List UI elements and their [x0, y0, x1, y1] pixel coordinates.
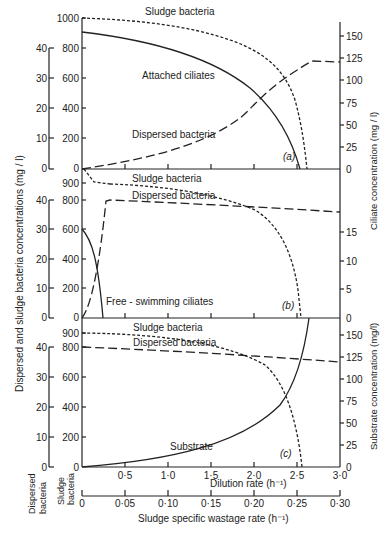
tick-label: 0·5	[118, 470, 133, 481]
b-free-swimming-ciliates-curve	[82, 229, 103, 318]
tick-label: 0·15	[201, 498, 221, 509]
tick-label: 2·5	[290, 470, 305, 481]
a-sludge-curve	[82, 18, 307, 169]
tick-label: 15	[346, 227, 358, 238]
tick-label: 20	[36, 254, 48, 265]
c-dispersed-bacteria-label: Dispersed bacteria	[133, 337, 217, 348]
c-sludge-label: Sludge bacteria	[133, 322, 203, 333]
b-panel-label: (b)	[282, 300, 294, 311]
tick-label: 0	[346, 164, 352, 175]
tick-label: 40	[36, 43, 48, 54]
a-panel-label: (a)	[283, 151, 295, 162]
tick-label: 75	[346, 98, 358, 109]
tick-label: 0	[73, 312, 79, 323]
tick-label: 3·0	[333, 470, 348, 481]
tick-label: 75	[346, 396, 358, 407]
b-free-swimming-ciliates-label: Free - swimming ciliates	[106, 296, 213, 307]
dispersed-axis-name-2: bacteria	[38, 482, 48, 514]
c-panel-label: (c)	[280, 448, 292, 459]
tick-label: 150	[346, 330, 363, 341]
tick-label: 400	[62, 103, 79, 114]
sludge-axis-name-1: Sludge	[56, 477, 66, 505]
tick-label: 0	[41, 462, 47, 473]
tick-label: 0	[41, 163, 47, 174]
tick-label: 200	[62, 133, 79, 144]
tick-label: 800	[62, 43, 79, 54]
tick-label: 200	[62, 432, 79, 443]
left-axis-title: Dispersed and sludge bacteria concentrat…	[14, 155, 25, 392]
tick-label: 100	[346, 75, 363, 86]
tick-label: 30	[36, 372, 48, 383]
tick-label: 0	[41, 312, 47, 323]
tick-label: 0·05	[115, 498, 135, 509]
tick-label: 400	[62, 402, 79, 413]
right-axis-title-substrate: Substrate concentration (mg/l)	[368, 323, 379, 450]
tick-label: 125	[346, 352, 363, 363]
tick-label: 600	[62, 224, 79, 235]
c-substrate-label: Substrate	[170, 441, 213, 452]
tick-label: 5	[346, 284, 352, 295]
tick-label: 2·0	[247, 470, 262, 481]
tick-label: 900	[62, 328, 79, 339]
x2-axis-title: Sludge specific wastage rate (h⁻¹)	[138, 513, 289, 524]
a-sludge-label: Sludge bacteria	[145, 6, 215, 17]
sludge-axis-name-2: bacteria	[66, 473, 76, 505]
tick-label: 30	[36, 224, 48, 235]
tick-label: 10	[36, 283, 48, 294]
tick-label: 0·30	[330, 498, 350, 509]
tick-label: 150	[346, 31, 363, 42]
tick-label: 20	[36, 402, 48, 413]
tick-label: 10	[36, 133, 48, 144]
tick-label: 0·10	[158, 498, 178, 509]
tick-label: 0·25	[287, 498, 307, 509]
tick-label: 50	[346, 120, 358, 131]
tick-label: 0	[346, 313, 352, 324]
a-dispersed-bacteria-label: Dispersed bacteria	[132, 129, 216, 140]
tick-label: 10	[36, 432, 48, 443]
tick-label: 600	[62, 73, 79, 84]
tick-label: 100	[346, 374, 363, 385]
tick-label: 125	[346, 53, 363, 64]
tick-label: 1·0	[161, 470, 176, 481]
tick-label: 900	[62, 178, 79, 189]
tick-label: 0	[73, 163, 79, 174]
tick-label: 800	[62, 342, 79, 353]
b-sludge-label: Sludge bacteria	[132, 173, 202, 184]
tick-label: 40	[36, 342, 48, 353]
tick-label: 400	[62, 254, 79, 265]
tick-label: 25	[346, 142, 358, 153]
tick-label: 0	[73, 462, 79, 473]
tick-label: 20	[36, 103, 48, 114]
tick-label: 1000	[57, 13, 80, 24]
tick-label: 30	[36, 73, 48, 84]
dispersed-axis-name-1: Dispersed	[27, 473, 37, 514]
tick-label: 25	[346, 440, 358, 451]
tick-label: 50	[346, 418, 358, 429]
a-attached-ciliates-curve	[82, 32, 300, 169]
tick-label: 1·5	[204, 470, 219, 481]
b-dispersed-bacteria-label: Dispersed bacteria	[132, 190, 216, 201]
tick-label: 0·20	[244, 498, 264, 509]
tick-label: 10	[346, 256, 358, 267]
tick-label: 200	[62, 283, 79, 294]
a-sludge-transition	[84, 169, 110, 184]
tick-label: 600	[62, 372, 79, 383]
tick-label: 800	[62, 195, 79, 206]
tick-label: 40	[36, 195, 48, 206]
a-attached-ciliates-label: Attached ciliates	[142, 70, 215, 81]
three-panel-chart: Sludge bacteria Attached ciliates Disper…	[0, 0, 384, 540]
tick-label: 0	[79, 498, 85, 509]
right-axis-title-ciliate: Ciliate concentration (mg / l)	[368, 112, 379, 230]
